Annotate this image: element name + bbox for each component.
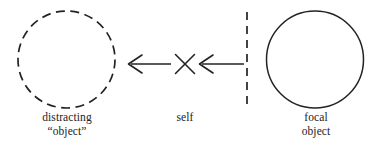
label-focal-object: focal object [268, 110, 364, 138]
arrow-left-from-divider [200, 55, 245, 73]
arrow-left-to-distracting-object [129, 55, 172, 73]
diagram-canvas: distracting “object” self focal object [0, 0, 374, 153]
label-focal-line-2: object [268, 124, 364, 138]
label-distracting-object: distracting “object” [6, 110, 128, 138]
label-distracting-line-1: distracting [6, 110, 128, 124]
label-self-line-1: self [148, 110, 222, 124]
label-distracting-line-2: “object” [6, 124, 128, 138]
x-mark-self [176, 55, 195, 74]
label-focal-line-1: focal [268, 110, 364, 124]
solid-circle-focal-object [267, 11, 364, 108]
label-self: self [148, 110, 222, 124]
dashed-circle-distracting-object [18, 11, 115, 108]
